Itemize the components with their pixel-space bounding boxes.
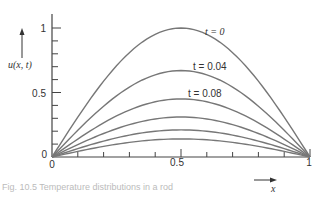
curve-0: [52, 28, 310, 157]
y-tick-label-0: 0: [41, 149, 47, 160]
y-axis-label: u(x, t): [8, 59, 33, 71]
curve-label-t004: t = 0.04: [193, 61, 227, 72]
chart: 1 0.5 0 0 0.5 1 u(x, t) x t = 0 t = 0.04…: [0, 0, 316, 197]
x-axis-label: x: [270, 183, 276, 194]
x-tick-label-1: 1: [306, 157, 312, 168]
x-tick-label-05: 0.5: [170, 157, 184, 168]
y-tick-label-1: 1: [40, 23, 46, 34]
y-ticks: [52, 28, 61, 144]
y-arrow-head-icon: [20, 28, 25, 35]
figure-caption: Fig. 10.5 Temperature distributions in a…: [2, 182, 173, 192]
curve-label-t0: t = 0: [205, 26, 225, 37]
x-tick-label-0: 0: [49, 159, 55, 170]
y-tick-label-05: 0.5: [32, 88, 46, 99]
curves: [52, 28, 310, 157]
x-arrow-head-icon: [270, 178, 277, 183]
curve-label-t008: t = 0.08: [188, 88, 222, 99]
